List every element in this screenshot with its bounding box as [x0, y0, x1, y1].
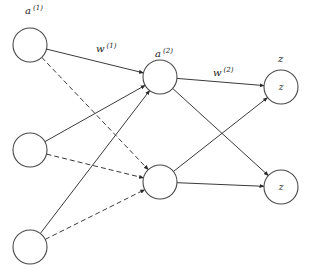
hidden-node-h1 [143, 60, 177, 94]
weights-1-label: w(1) [96, 42, 117, 54]
node-label: z [278, 182, 284, 192]
output-node-o2: z [264, 170, 298, 204]
node-circle [143, 60, 177, 94]
weights-2-label: w(2) [213, 66, 234, 78]
output-node-o1: z [264, 70, 298, 104]
node-circle [13, 28, 47, 62]
input-node-i3 [13, 230, 47, 264]
hidden-layer-label: a(2) [155, 47, 173, 59]
node-circle [13, 230, 47, 264]
output-layer-label: z [277, 53, 284, 64]
edge-i3-h1 [40, 91, 149, 234]
edge-i2-h2 [47, 154, 144, 178]
edge-i3-h2 [45, 190, 145, 240]
edge-h2-o2 [177, 183, 264, 187]
node-circle [143, 165, 177, 199]
edge-h2-o1 [173, 98, 267, 172]
input-layer-label: a(1) [25, 4, 43, 16]
edge-h1-o2 [173, 88, 269, 175]
hidden-node-h2 [143, 165, 177, 199]
input-node-i2 [13, 133, 47, 167]
node-label: z [278, 82, 284, 92]
edge-i2-h1 [45, 85, 145, 141]
edge-i1-h1 [47, 49, 144, 73]
edge-h1-o1 [177, 78, 264, 85]
node-circle [13, 133, 47, 167]
neural-network-diagram: zz a(1) w(1) a(2) w(2) z [0, 0, 309, 273]
input-node-i1 [13, 28, 47, 62]
nodes-group: zz [13, 28, 298, 264]
